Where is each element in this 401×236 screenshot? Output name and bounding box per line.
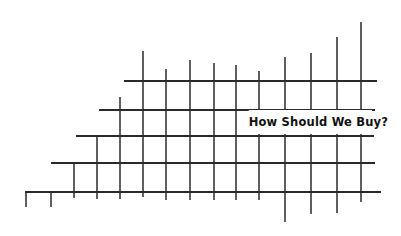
illustration-title: How Should We Buy? [249, 110, 372, 134]
horizontal-grid-lines [25, 81, 381, 192]
